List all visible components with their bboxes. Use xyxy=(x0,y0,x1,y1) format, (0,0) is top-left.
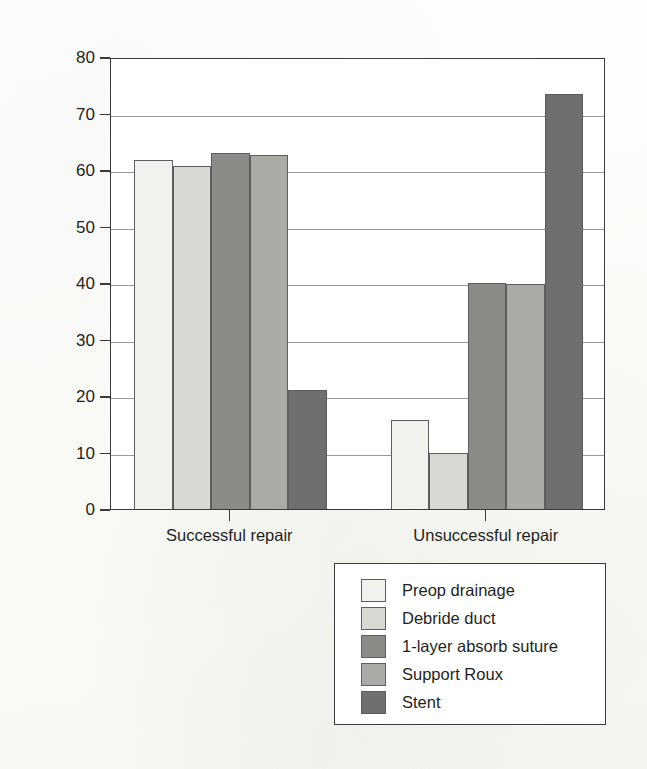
bar xyxy=(468,283,507,509)
y-tick-mark-40 xyxy=(100,283,110,284)
x-tick-mark-2 xyxy=(485,510,486,521)
y-tick-label-10: 10 xyxy=(49,445,95,462)
legend-item[interactable]: Support Roux xyxy=(361,660,605,688)
y-tick-label-70: 70 xyxy=(49,106,95,123)
chart-legend: Preop drainageDebride duct1-layer absorb… xyxy=(334,563,606,725)
bar xyxy=(391,420,430,509)
y-tick-label-50: 50 xyxy=(49,219,95,236)
bar-chart-figure: Percent applying technique 0102030405060… xyxy=(0,0,647,769)
legend-item[interactable]: Preop drainage xyxy=(361,576,605,604)
bar xyxy=(288,390,327,509)
legend-item[interactable]: Stent xyxy=(361,688,605,716)
y-tick-label-40: 40 xyxy=(49,275,95,292)
y-tick-mark-50 xyxy=(100,227,110,228)
y-axis-title: Percent applying technique xyxy=(34,0,60,84)
x-category-label: Unsuccessful repair xyxy=(413,526,558,545)
bar xyxy=(173,166,212,509)
y-tick-mark-0 xyxy=(100,509,110,510)
legend-item-label: Preop drainage xyxy=(402,582,515,599)
bar xyxy=(134,160,173,509)
legend-item-label: Stent xyxy=(402,694,441,711)
y-tick-mark-20 xyxy=(100,396,110,397)
gridline-70 xyxy=(111,116,604,117)
y-tick-mark-80 xyxy=(100,57,110,58)
y-tick-label-0: 0 xyxy=(49,501,95,518)
x-category-label: Successful repair xyxy=(166,526,293,545)
bar xyxy=(506,284,545,509)
y-tick-mark-10 xyxy=(100,453,110,454)
plot-area xyxy=(110,58,605,510)
legend-swatch-icon xyxy=(361,663,386,686)
legend-swatch-icon xyxy=(361,635,386,658)
y-tick-label-80: 80 xyxy=(49,49,95,66)
bar xyxy=(211,153,250,510)
y-tick-label-20: 20 xyxy=(49,388,95,405)
y-tick-mark-30 xyxy=(100,340,110,341)
x-tick-mark-1 xyxy=(229,510,230,521)
legend-swatch-icon xyxy=(361,607,386,630)
legend-item-label: Debride duct xyxy=(402,610,496,627)
legend-item[interactable]: 1-layer absorb suture xyxy=(361,632,605,660)
legend-item-label: Support Roux xyxy=(402,666,503,683)
legend-item[interactable]: Debride duct xyxy=(361,604,605,632)
legend-swatch-icon xyxy=(361,579,386,602)
y-tick-label-60: 60 xyxy=(49,162,95,179)
bar xyxy=(429,453,468,510)
y-tick-mark-60 xyxy=(100,170,110,171)
legend-item-label: 1-layer absorb suture xyxy=(402,638,558,655)
y-tick-mark-70 xyxy=(100,114,110,115)
bar xyxy=(545,94,584,509)
legend-swatch-icon xyxy=(361,691,386,714)
bar xyxy=(250,155,289,509)
y-tick-label-30: 30 xyxy=(49,332,95,349)
